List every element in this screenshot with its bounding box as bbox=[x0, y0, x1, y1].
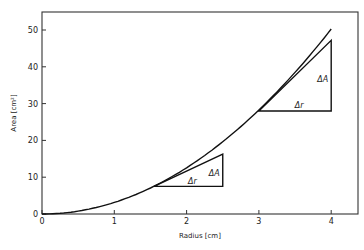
x-axis-label: Radius [cm] bbox=[179, 232, 221, 240]
plot-frame bbox=[42, 12, 358, 214]
x-tick-label: 4 bbox=[329, 217, 334, 226]
y-tick-label: 40 bbox=[28, 63, 38, 72]
y-tick-label: 10 bbox=[28, 173, 38, 182]
y-tick-label: 50 bbox=[28, 26, 38, 35]
delta-r-label: Δr bbox=[294, 101, 304, 110]
area-vs-radius-chart: 0123401020304050 ΔrΔAΔrΔA Radius [cm] Ar… bbox=[0, 0, 364, 250]
delta-a-label: ΔA bbox=[208, 169, 220, 178]
axis-ticks: 0123401020304050 bbox=[28, 26, 334, 226]
delta-a-label: ΔA bbox=[316, 75, 328, 84]
y-tick-label: 20 bbox=[28, 136, 38, 145]
x-tick-label: 2 bbox=[184, 217, 189, 226]
plot-border bbox=[42, 12, 358, 214]
x-tick-label: 0 bbox=[39, 217, 44, 226]
y-tick-label: 0 bbox=[33, 210, 38, 219]
delta-r-label: Δr bbox=[187, 177, 197, 186]
y-tick-label: 30 bbox=[28, 100, 38, 109]
x-tick-label: 1 bbox=[112, 217, 117, 226]
x-tick-label: 3 bbox=[256, 217, 261, 226]
y-axis-label: Area [cm²] bbox=[10, 94, 18, 132]
